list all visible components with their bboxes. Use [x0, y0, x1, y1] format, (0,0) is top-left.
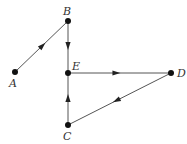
labels-group: ABCDE [8, 5, 186, 143]
arrowhead-icon [112, 70, 120, 75]
directed-graph: ABCDE [0, 0, 187, 144]
edges-group [15, 21, 171, 125]
node-c [65, 122, 71, 128]
node-label-a: A [8, 77, 17, 90]
node-label-d: D [176, 67, 186, 80]
node-e [65, 70, 71, 76]
node-label-e: E [71, 60, 80, 73]
node-d [168, 70, 174, 76]
arrowhead-icon [65, 42, 70, 50]
arrowhead-icon [65, 94, 70, 102]
arrowhead-icon [112, 96, 121, 104]
node-label-c: C [63, 130, 72, 143]
node-b [65, 18, 71, 24]
node-a [12, 69, 18, 75]
node-label-b: B [62, 5, 71, 18]
